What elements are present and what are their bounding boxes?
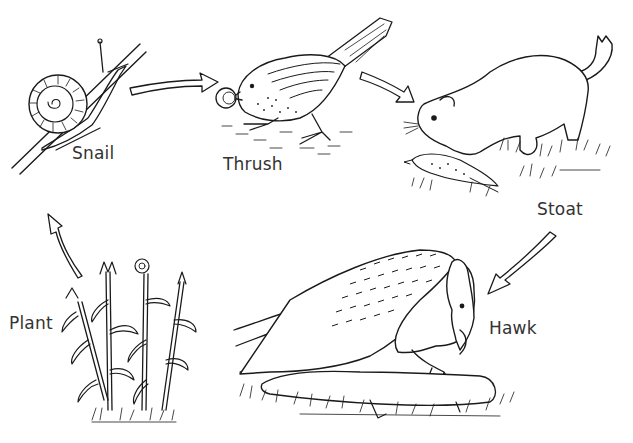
arrow-stoat-to-hawk xyxy=(488,232,556,294)
hawk-illustration xyxy=(234,250,514,418)
label-hawk: Hawk xyxy=(489,318,537,338)
thrush-ground xyxy=(222,126,352,154)
diagram-artwork xyxy=(0,0,633,443)
label-plant: Plant xyxy=(9,313,53,333)
plant-illustration xyxy=(62,259,196,422)
arrow-thrush-to-stoat xyxy=(360,72,414,102)
food-chain-diagram: Snail Thrush Stoat Hawk Plant xyxy=(0,0,633,443)
label-snail: Snail xyxy=(72,143,114,163)
arrow-plant-to-snail xyxy=(48,214,82,278)
stoat-illustration xyxy=(404,36,612,196)
arrow-snail-to-thrush xyxy=(130,73,218,95)
label-thrush: Thrush xyxy=(223,154,283,174)
thrush-illustration xyxy=(216,18,392,154)
label-stoat: Stoat xyxy=(537,199,583,219)
